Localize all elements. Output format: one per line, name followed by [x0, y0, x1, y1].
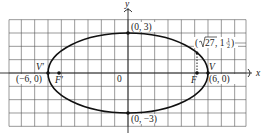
top-point-label: (0, 3): [131, 22, 152, 33]
point-vertex-left: [46, 71, 50, 75]
ellipse-diagram: y x 0 (0, 3) (0, −3) V′ (−6, 0) F′ V (6,…: [0, 0, 265, 133]
latus-close-paren: ): [231, 38, 234, 49]
latus-frac-den: 2: [227, 43, 230, 49]
latus-radicand: 27: [205, 38, 215, 48]
latus-open-paren: (: [195, 38, 198, 49]
vertex-left-coord: (−6, 0): [16, 74, 42, 85]
vertex-right-name: V: [209, 62, 216, 72]
focus-right-name: F: [190, 75, 197, 85]
vertex-right-coord: (6, 0): [209, 74, 230, 85]
focus-left-name: F′: [54, 75, 64, 85]
origin-label: 0: [117, 74, 122, 84]
point-bottom: [126, 111, 130, 115]
point-top: [126, 31, 130, 35]
bottom-point-label: (0, −3): [131, 114, 157, 125]
x-axis-label: x: [255, 68, 261, 78]
point-latus: [196, 52, 199, 55]
vertex-left-name: V′: [36, 62, 45, 72]
latus-mid: , 1: [215, 38, 225, 48]
y-axis-label: y: [124, 0, 130, 9]
